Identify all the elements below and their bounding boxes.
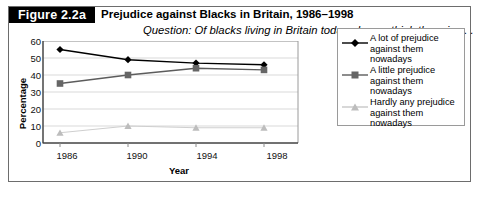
figure-card: Figure 2.2a Prejudice against Blacks in … (8, 6, 471, 182)
legend-entry-a-lot: A lot of prejudice against them nowadays (342, 35, 464, 61)
figure-title: Prejudice against Blacks in Britain, 198… (101, 8, 354, 20)
legend-label-hardly-any: Hardly any prejudice against them nowada… (370, 97, 466, 129)
chart-legend: A lot of prejudice against them nowadays… (337, 28, 465, 126)
legend-label-a-lot: A lot of prejudice against them nowadays (370, 33, 466, 65)
legend-entry-hardly-any: Hardly any prejudice against them nowada… (342, 99, 464, 125)
chart-gridlines (43, 41, 298, 126)
figure-number-tag: Figure 2.2a (9, 7, 95, 23)
triangle-marker-icon (342, 101, 368, 113)
chart-series-layer (56, 46, 267, 136)
square-marker-icon (342, 69, 368, 81)
legend-label-a-little: A little prejudice against them nowadays (370, 65, 466, 97)
x-axis-ticks (60, 143, 264, 147)
diamond-marker-icon (342, 37, 368, 49)
legend-entry-a-little: A little prejudice against them nowadays (342, 67, 464, 93)
figure-header: Figure 2.2a Prejudice against Blacks in … (9, 7, 470, 23)
